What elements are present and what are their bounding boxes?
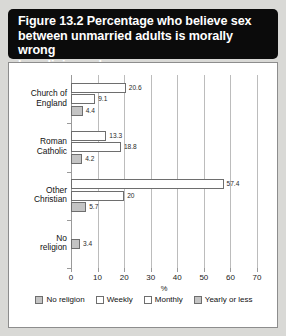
chart-legend: No religionWeeklyMonthlyYearly or less — [9, 295, 279, 304]
bar — [71, 179, 224, 189]
x-tick-label: 60 — [218, 273, 242, 282]
bar-value-label: 9.1 — [98, 94, 107, 104]
category-tick — [67, 172, 71, 173]
axis-tick — [98, 268, 99, 272]
gridline — [230, 75, 231, 268]
bar-value-label: 13.3 — [109, 131, 122, 141]
x-tick-label: 10 — [86, 273, 110, 282]
category-axis: Church of EnglandRoman CatholicOther Chr… — [9, 75, 67, 268]
x-axis-label: % — [71, 284, 257, 293]
legend-swatch-icon — [96, 296, 104, 304]
plot-area: 010203040506070%20.69.14.413.318.84.257.… — [71, 75, 257, 268]
axis-tick — [230, 268, 231, 272]
axis-tick — [257, 268, 258, 272]
gridline — [124, 75, 125, 268]
category-label: Other Christian — [9, 186, 67, 205]
bar — [71, 142, 121, 152]
chart-panel: Church of EnglandRoman CatholicOther Chr… — [8, 62, 278, 328]
bar-value-label: 18.8 — [124, 142, 137, 152]
x-tick-label: 50 — [192, 273, 216, 282]
figure-title-banner: Figure 13.2 Percentage who believe sex b… — [8, 9, 278, 59]
bar-value-label: 3.4 — [83, 239, 92, 249]
gridline — [151, 75, 152, 268]
bar — [71, 131, 106, 141]
x-tick-label: 20 — [112, 273, 136, 282]
x-tick-label: 70 — [245, 273, 269, 282]
category-label: Roman Catholic — [9, 137, 67, 156]
legend-label: No religion — [46, 295, 84, 304]
legend-item[interactable]: No religion — [35, 295, 84, 304]
category-label: Church of England — [9, 89, 67, 108]
category-tick — [67, 123, 71, 124]
bar-value-label: 20.6 — [129, 83, 142, 93]
bar — [71, 94, 95, 104]
legend-swatch-icon — [35, 296, 43, 304]
gridline — [177, 75, 178, 268]
x-tick-label: 30 — [139, 273, 163, 282]
bar-value-label: 4.4 — [86, 106, 95, 116]
axis-tick — [124, 268, 125, 272]
category-tick — [67, 268, 71, 269]
bar — [71, 239, 80, 249]
bar — [71, 106, 83, 116]
legend-label: Monthly — [155, 295, 183, 304]
bar-value-label: 57.4 — [227, 179, 240, 189]
figure-container: Figure 13.2 Percentage who believe sex b… — [0, 0, 286, 336]
bar — [71, 154, 82, 164]
legend-label: Weekly — [107, 295, 133, 304]
legend-item[interactable]: Yearly or less — [194, 295, 253, 304]
bar — [71, 83, 126, 93]
legend-swatch-icon — [144, 296, 152, 304]
legend-item[interactable]: Weekly — [96, 295, 133, 304]
bar — [71, 202, 86, 212]
bar-value-label: 20 — [127, 191, 134, 201]
legend-label: Yearly or less — [205, 295, 253, 304]
axis-tick — [204, 268, 205, 272]
axis-tick — [177, 268, 178, 272]
x-tick-label: 0 — [59, 273, 83, 282]
bar — [71, 191, 124, 201]
axis-tick — [71, 268, 72, 272]
gridline — [204, 75, 205, 268]
legend-swatch-icon — [194, 296, 202, 304]
gridline — [257, 75, 258, 268]
category-label: No religion — [9, 234, 67, 253]
legend-item[interactable]: Monthly — [144, 295, 183, 304]
axis-tick — [151, 268, 152, 272]
bar-value-label: 5.7 — [89, 202, 98, 212]
x-tick-label: 40 — [165, 273, 189, 282]
category-tick — [67, 220, 71, 221]
bar-value-label: 4.2 — [85, 154, 94, 164]
